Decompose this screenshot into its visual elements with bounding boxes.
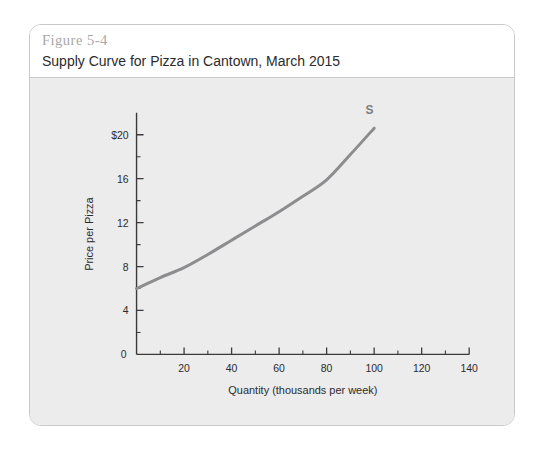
x-axis-tick-labels: 020406080100120140 [121,349,478,374]
y-axis-title: Price per Pizza [83,196,95,270]
svg-text:140: 140 [460,363,478,374]
y-axis-tick-labels: 481216$20 [111,130,129,317]
svg-text:100: 100 [365,363,383,374]
y-axis: 481216$20 Price per Pizza [83,113,144,355]
figure-card: Figure 5-4 Supply Curve for Pizza in Can… [29,24,515,426]
svg-text:4: 4 [123,305,129,316]
x-axis-title: Quantity (thousands per week) [228,384,377,396]
figure-header: Figure 5-4 Supply Curve for Pizza in Can… [30,25,514,78]
svg-text:$20: $20 [111,130,129,141]
supply-curve-chart: 481216$20 Price per Pizza 02040608010012… [30,78,514,425]
figure-title: Supply Curve for Pizza in Cantown, March… [42,51,514,71]
svg-text:8: 8 [123,262,129,273]
svg-text:120: 120 [413,363,431,374]
x-axis: 020406080100120140 Quantity (thousands p… [121,347,478,396]
supply-curve-line [137,128,375,288]
svg-text:60: 60 [273,363,285,374]
y-axis-ticks [137,135,144,333]
svg-text:20: 20 [178,363,190,374]
svg-text:40: 40 [226,363,238,374]
svg-text:0: 0 [121,349,127,360]
svg-text:12: 12 [117,218,129,229]
figure-number: Figure 5-4 [42,32,514,49]
svg-text:16: 16 [117,174,129,185]
supply-curve-label: S [365,103,373,117]
x-axis-ticks [160,347,469,354]
chart-plot-area: 481216$20 Price per Pizza 02040608010012… [30,78,514,425]
svg-text:80: 80 [321,363,333,374]
